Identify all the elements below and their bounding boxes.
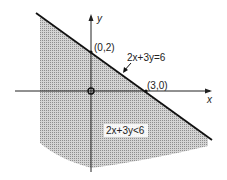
intercept-label-y: (0,2) [94, 42, 115, 53]
y-axis-arrow-icon [89, 14, 94, 21]
x-axis-label: x [206, 94, 213, 105]
x-axis-arrow-icon [205, 89, 212, 94]
y-axis-label: y [96, 13, 103, 24]
intercept-point-y [89, 50, 92, 53]
graph-canvas: y x (0,2) (3,0) 2x+3y=6 2x+3y<6 [0, 0, 227, 180]
intercept-label-x: (3,0) [147, 80, 168, 91]
region-label: 2x+3y<6 [106, 125, 145, 136]
boundary-line-label: 2x+3y=6 [127, 52, 166, 63]
shaded-region [40, 17, 208, 168]
